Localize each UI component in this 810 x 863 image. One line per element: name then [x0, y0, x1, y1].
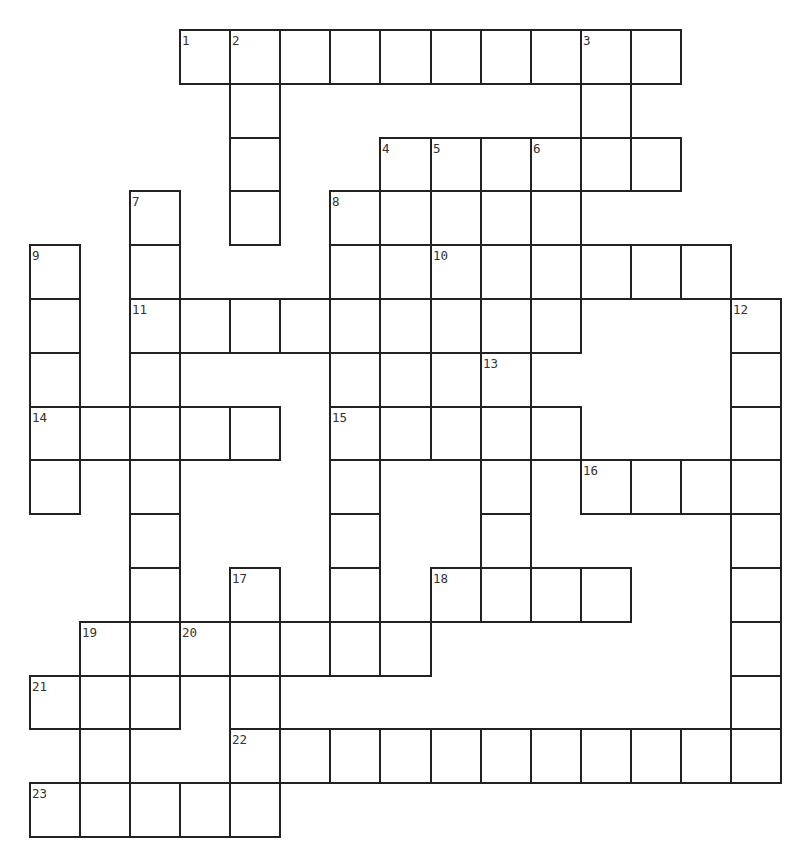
crossword-cell[interactable]	[480, 406, 532, 461]
crossword-cell[interactable]	[630, 137, 682, 192]
crossword-cell[interactable]	[730, 459, 782, 515]
cell-letter-input[interactable]	[331, 192, 379, 244]
crossword-cell[interactable]	[530, 728, 582, 784]
crossword-cell[interactable]	[430, 298, 482, 354]
crossword-cell[interactable]	[129, 459, 181, 515]
cell-letter-input[interactable]	[81, 784, 129, 836]
cell-letter-input[interactable]	[131, 623, 179, 675]
cell-letter-input[interactable]	[632, 139, 680, 190]
cell-letter-input[interactable]	[582, 569, 630, 621]
cell-letter-input[interactable]	[432, 730, 480, 782]
crossword-cell[interactable]: 4	[379, 137, 432, 192]
cell-letter-input[interactable]	[381, 730, 430, 782]
cell-letter-input[interactable]	[532, 408, 580, 459]
cell-letter-input[interactable]	[582, 139, 630, 190]
cell-letter-input[interactable]	[31, 246, 79, 298]
crossword-cell[interactable]	[229, 83, 281, 139]
cell-letter-input[interactable]	[131, 569, 179, 621]
crossword-cell[interactable]	[480, 728, 532, 784]
crossword-cell[interactable]: 7	[129, 190, 181, 246]
cell-letter-input[interactable]	[81, 677, 129, 728]
cell-letter-input[interactable]	[482, 569, 530, 621]
crossword-cell[interactable]	[530, 244, 582, 300]
cell-letter-input[interactable]	[682, 461, 730, 513]
cell-letter-input[interactable]	[582, 461, 630, 513]
cell-letter-input[interactable]	[482, 461, 530, 513]
crossword-cell[interactable]	[279, 728, 331, 784]
cell-letter-input[interactable]	[732, 515, 780, 567]
crossword-cell[interactable]	[630, 244, 682, 300]
cell-letter-input[interactable]	[31, 461, 79, 513]
crossword-cell[interactable]	[480, 459, 532, 515]
crossword-cell[interactable]	[229, 675, 281, 730]
cell-letter-input[interactable]	[432, 192, 480, 244]
cell-letter-input[interactable]	[231, 569, 279, 621]
crossword-cell[interactable]	[530, 298, 582, 354]
cell-letter-input[interactable]	[181, 300, 229, 352]
crossword-cell[interactable]: 23	[29, 782, 81, 838]
crossword-cell[interactable]	[680, 459, 732, 515]
crossword-cell[interactable]	[379, 728, 432, 784]
cell-letter-input[interactable]	[482, 300, 530, 352]
cell-letter-input[interactable]	[231, 300, 279, 352]
crossword-cell[interactable]	[730, 567, 782, 623]
crossword-cell[interactable]: 11	[129, 298, 181, 354]
cell-letter-input[interactable]	[381, 354, 430, 406]
crossword-cell[interactable]	[229, 621, 281, 677]
cell-letter-input[interactable]	[381, 408, 430, 459]
cell-letter-input[interactable]	[331, 515, 379, 567]
crossword-cell[interactable]: 20	[179, 621, 231, 677]
cell-letter-input[interactable]	[732, 300, 780, 352]
crossword-cell[interactable]	[530, 190, 582, 246]
cell-letter-input[interactable]	[181, 784, 229, 836]
cell-letter-input[interactable]	[331, 730, 379, 782]
cell-letter-input[interactable]	[582, 730, 630, 782]
crossword-cell[interactable]	[279, 298, 331, 354]
crossword-cell[interactable]	[379, 621, 432, 677]
crossword-cell[interactable]	[680, 728, 732, 784]
crossword-cell[interactable]	[430, 728, 482, 784]
cell-letter-input[interactable]	[331, 461, 379, 513]
crossword-cell[interactable]	[730, 621, 782, 677]
cell-letter-input[interactable]	[432, 31, 480, 83]
crossword-cell[interactable]	[329, 567, 381, 623]
cell-letter-input[interactable]	[81, 730, 129, 782]
crossword-cell[interactable]	[730, 352, 782, 408]
crossword-cell[interactable]	[730, 675, 782, 730]
cell-letter-input[interactable]	[231, 139, 279, 190]
crossword-cell[interactable]	[680, 244, 732, 300]
crossword-cell[interactable]	[530, 567, 582, 623]
crossword-cell[interactable]	[379, 406, 432, 461]
crossword-cell[interactable]	[430, 29, 482, 85]
cell-letter-input[interactable]	[732, 730, 780, 782]
cell-letter-input[interactable]	[432, 300, 480, 352]
cell-letter-input[interactable]	[482, 354, 530, 406]
crossword-cell[interactable]	[129, 621, 181, 677]
cell-letter-input[interactable]	[231, 730, 279, 782]
cell-letter-input[interactable]	[432, 246, 480, 298]
crossword-cell[interactable]	[430, 406, 482, 461]
crossword-cell[interactable]	[329, 244, 381, 300]
crossword-cell[interactable]	[179, 406, 231, 461]
crossword-cell[interactable]	[329, 352, 381, 408]
cell-letter-input[interactable]	[131, 784, 179, 836]
cell-letter-input[interactable]	[231, 192, 279, 244]
crossword-cell[interactable]	[79, 406, 131, 461]
crossword-cell[interactable]	[480, 137, 532, 192]
crossword-cell[interactable]	[229, 137, 281, 192]
cell-letter-input[interactable]	[231, 623, 279, 675]
cell-letter-input[interactable]	[31, 784, 79, 836]
crossword-cell[interactable]	[29, 298, 81, 354]
cell-letter-input[interactable]	[732, 354, 780, 406]
crossword-cell[interactable]	[279, 29, 331, 85]
cell-letter-input[interactable]	[632, 461, 680, 513]
crossword-cell[interactable]	[329, 621, 381, 677]
cell-letter-input[interactable]	[181, 31, 229, 83]
cell-letter-input[interactable]	[31, 677, 79, 728]
crossword-cell[interactable]	[179, 298, 231, 354]
cell-letter-input[interactable]	[131, 300, 179, 352]
crossword-cell[interactable]	[229, 298, 281, 354]
crossword-cell[interactable]	[580, 83, 632, 139]
crossword-cell[interactable]	[379, 244, 432, 300]
crossword-cell[interactable]: 1	[179, 29, 231, 85]
